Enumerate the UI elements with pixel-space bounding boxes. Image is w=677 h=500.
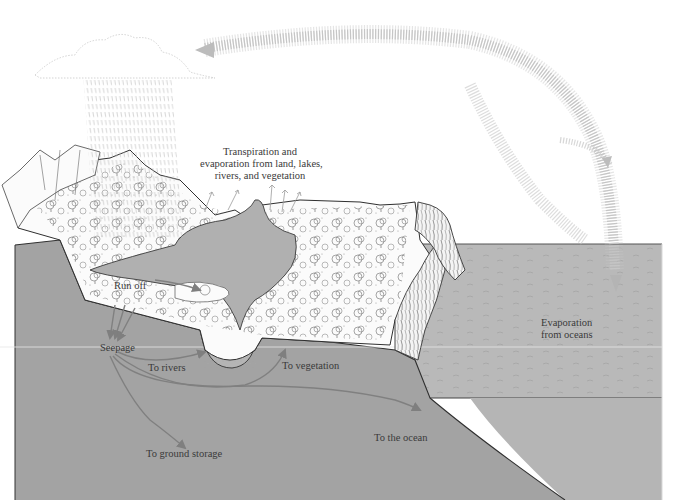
label-to-vegetation: To vegetation	[282, 360, 339, 372]
label-transpiration-line3: rivers, and vegetation	[200, 170, 320, 182]
label-to-the-ocean: To the ocean	[374, 432, 428, 444]
rain-cloud	[35, 34, 215, 78]
label-seepage: Seepage	[100, 342, 135, 354]
label-evaporation-line2: from oceans	[541, 329, 593, 341]
label-evaporation-line1: Evaporation	[541, 317, 593, 329]
label-to-ground-storage: To ground storage	[146, 448, 222, 460]
label-evaporation-oceans: Evaporation from oceans	[541, 317, 593, 341]
water-cycle-diagram	[0, 0, 677, 500]
label-to-rivers: To rivers	[148, 362, 185, 374]
label-transpiration-line2: evaporation from land, lakes,	[200, 158, 320, 170]
label-transpiration-line1: Transpiration and	[200, 146, 320, 158]
label-run-off: Run off	[114, 280, 146, 292]
label-transpiration: Transpiration and evaporation from land,…	[200, 146, 320, 182]
precipitation-rain	[83, 78, 182, 238]
